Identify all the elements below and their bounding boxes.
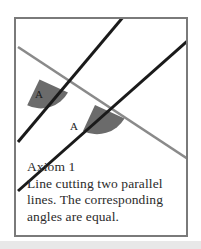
- geometry-figure-box: A A Axiom 1 Line cutting two parallel li…: [14, 17, 188, 237]
- caption-title: Axiom 1: [27, 159, 179, 176]
- caption-line-3: angles are equal.: [27, 209, 179, 226]
- angle-label-lower: A: [70, 120, 78, 132]
- figure-page: A A Axiom 1 Line cutting two parallel li…: [0, 0, 201, 249]
- page-bottom-strip: [0, 241, 201, 249]
- caption-line-2: lines. The corresponding: [27, 192, 179, 209]
- caption-block: Axiom 1 Line cutting two parallel lines.…: [27, 159, 179, 225]
- angle-sector-upper: [27, 80, 68, 109]
- angle-label-upper: A: [35, 88, 43, 100]
- caption-line-1: Line cutting two parallel: [27, 176, 179, 193]
